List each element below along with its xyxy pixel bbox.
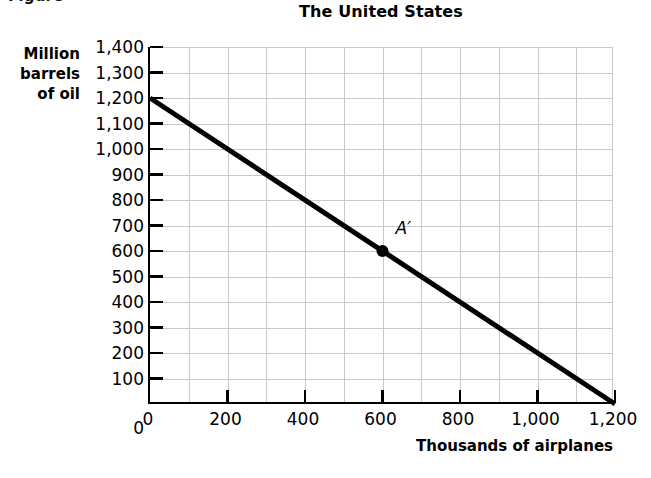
plot-area: A′ <box>148 47 613 404</box>
x-axis-label: Thousands of airplanes <box>300 437 613 455</box>
y-tick-label: 400 <box>112 292 144 312</box>
x-tick-label: 800 <box>442 409 474 429</box>
y-tick-label: 600 <box>112 241 144 261</box>
y-tick-label: 1,000 <box>95 139 144 159</box>
y-tick-label: 200 <box>112 343 144 363</box>
y-tick-label: 500 <box>112 267 144 287</box>
x-tick-label: 200 <box>209 409 241 429</box>
x-tick-label: 0 <box>143 409 154 429</box>
x-tick-label: 1,000 <box>511 409 560 429</box>
y-axis-tick-labels: 01002003004005006007008009001,0001,1001,… <box>60 47 144 404</box>
x-tick-label: 1,200 <box>589 409 638 429</box>
y-tick-label: 300 <box>112 318 144 338</box>
chart-title: The United States <box>148 2 614 21</box>
y-tick-label: 900 <box>112 165 144 185</box>
y-tick-label: 100 <box>112 369 144 389</box>
x-axis-tick-labels: 02004006008001,0001,200 <box>148 409 613 433</box>
y-tick-label: 1,400 <box>95 37 144 57</box>
figure-caption: Figure <box>8 0 64 5</box>
annotation-label-a-prime: A′ <box>396 218 412 238</box>
y-tick-label: 1,100 <box>95 114 144 134</box>
data-line-layer <box>150 47 615 404</box>
y-tick-label: 700 <box>112 216 144 236</box>
y-tick-label: 1,300 <box>95 63 144 83</box>
y-tick-label: 800 <box>112 190 144 210</box>
x-tick-label: 400 <box>287 409 319 429</box>
y-tick-label: 1,200 <box>95 88 144 108</box>
data-point-marker <box>377 245 389 257</box>
x-tick-label: 600 <box>364 409 396 429</box>
